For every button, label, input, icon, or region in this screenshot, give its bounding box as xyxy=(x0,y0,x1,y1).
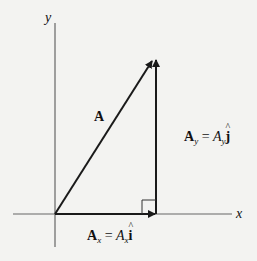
x-component-equals: = xyxy=(101,228,116,243)
y-component-label: Ay = Ayj xyxy=(184,130,230,146)
y-component-bold: A xyxy=(184,129,194,144)
y-component-equals: = xyxy=(198,129,213,144)
y-axis-label: y xyxy=(45,11,51,25)
x-component-label: Ax = Axi xyxy=(87,229,132,245)
j-hat-unit-vector: j xyxy=(226,130,231,144)
right-angle-marker xyxy=(142,200,156,214)
x-component-bold: A xyxy=(87,228,97,243)
x-axis-label: x xyxy=(236,207,242,221)
i-hat-unit-vector: i xyxy=(129,229,133,243)
vector-a-arrow xyxy=(55,61,152,214)
y-component-scalar: A xyxy=(213,129,222,144)
vector-a-label: A xyxy=(94,110,104,124)
x-component-scalar: A xyxy=(116,228,125,243)
